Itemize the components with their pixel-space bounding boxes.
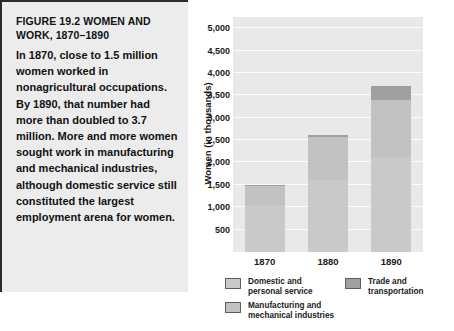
legend-swatch <box>225 278 241 289</box>
legend-swatch <box>225 302 241 313</box>
legend-item[interactable]: Domestic and personal service <box>225 277 313 297</box>
x-tick-label: 1870 <box>235 256 295 267</box>
x-tick-label: 1880 <box>298 256 358 267</box>
bar-segment[interactable] <box>245 186 285 205</box>
figure-title: FIGURE 19.2 WOMEN AND WORK, 1870–1890 <box>16 14 176 42</box>
bar-segment[interactable] <box>308 137 348 179</box>
bar-group[interactable] <box>371 17 411 252</box>
y-tick-label: 500 <box>190 225 230 235</box>
legend-swatch <box>345 278 361 289</box>
caption-panel: FIGURE 19.2 WOMEN AND WORK, 1870–1890 In… <box>0 0 188 292</box>
y-tick-label: 1,500 <box>190 180 230 190</box>
x-tick-label: 1890 <box>361 256 421 267</box>
y-tick-label: 5,000 <box>190 23 230 33</box>
bar-segment[interactable] <box>245 185 285 186</box>
y-tick-label: 1,000 <box>190 202 230 212</box>
bar-group[interactable] <box>245 17 285 252</box>
y-tick-label: 4,000 <box>190 68 230 78</box>
plot-area <box>233 17 423 252</box>
bar-segment[interactable] <box>245 205 285 252</box>
legend-label: Trade and transportation <box>368 277 424 297</box>
y-tick-label: 2,000 <box>190 157 230 167</box>
figure-caption-text: In 1870, close to 1.5 million women work… <box>16 47 179 225</box>
figure-container: FIGURE 19.2 WOMEN AND WORK, 1870–1890 In… <box>0 0 454 331</box>
bar-segment[interactable] <box>308 180 348 253</box>
y-tick-label: 2,500 <box>190 135 230 145</box>
y-tick-label: 3,000 <box>190 113 230 123</box>
y-tick-label: 3,500 <box>190 90 230 100</box>
y-tick-label: 4,500 <box>190 46 230 56</box>
bar-segment[interactable] <box>308 135 348 138</box>
legend-label: Manufacturing and mechanical industries <box>248 301 334 321</box>
legend-item[interactable]: Trade and transportation <box>345 277 424 297</box>
legend-item[interactable]: Manufacturing and mechanical industries <box>225 301 334 321</box>
bar-segment[interactable] <box>371 86 411 100</box>
legend-label: Domestic and personal service <box>248 277 313 297</box>
chart-region: Women (in thousands) Domestic and person… <box>188 0 454 331</box>
chart-legend: Domestic and personal serviceManufacturi… <box>225 277 453 325</box>
bar-segment[interactable] <box>371 100 411 158</box>
bar-segment[interactable] <box>371 158 411 252</box>
bar-group[interactable] <box>308 17 348 252</box>
